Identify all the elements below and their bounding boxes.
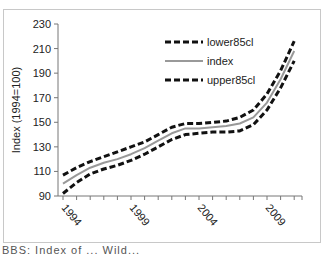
y-tick-label: 230: [33, 18, 51, 30]
x-tick-label: 1999: [127, 202, 152, 228]
y-axis-label: Index (1994=100): [10, 67, 22, 154]
y-tick-label: 90: [39, 190, 51, 202]
plot-lines: [63, 41, 294, 193]
y-tick-label: 110: [33, 165, 51, 177]
x-tick-label: 1994: [59, 202, 84, 228]
y-tick-label: 210: [33, 43, 51, 55]
x-tick-label: 2004: [195, 202, 220, 228]
y-tick-label: 190: [33, 67, 51, 79]
y-tick-label: 130: [33, 141, 51, 153]
legend-label-lower85cl: lower85cl: [207, 36, 253, 48]
figure-caption: BBS: Index of ... Wild...: [2, 244, 140, 256]
axes: 90110130150170190210230Index (1994=100)1…: [10, 18, 302, 228]
legend-label-index: index: [207, 55, 234, 67]
legend-label-upper85cl: upper85cl: [207, 74, 255, 86]
series-index: [63, 51, 294, 184]
x-tick-label: 2009: [263, 202, 288, 228]
y-tick-label: 170: [33, 92, 51, 104]
legend: lower85clindexupper85cl: [165, 36, 255, 86]
y-tick-label: 150: [33, 116, 51, 128]
